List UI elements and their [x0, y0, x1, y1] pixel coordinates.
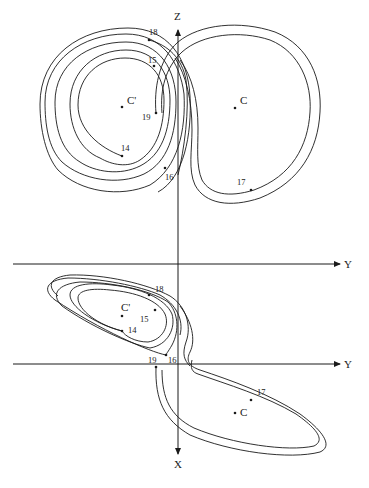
- c-label-top: C: [240, 94, 247, 106]
- label-17-bottom: 17: [257, 387, 266, 397]
- point-14-bottom: [121, 330, 124, 333]
- point-16-top: [164, 167, 167, 170]
- label-14-bottom: 14: [128, 325, 137, 335]
- point-18-top: [148, 39, 151, 42]
- fixed-point-c-top: [234, 107, 237, 110]
- y-axis-label-lower: Y: [344, 358, 352, 370]
- label-19-bottom: 19: [148, 355, 157, 365]
- top-panel: Z C' C 14 15 16 17: [40, 10, 320, 250]
- label-15-bottom: 15: [140, 314, 149, 324]
- label-19-top: 19: [142, 112, 151, 122]
- label-16-bottom: 16: [168, 355, 177, 365]
- z-axis-label: Z: [174, 10, 181, 22]
- point-18-bottom: [148, 294, 151, 297]
- point-19-bottom: [155, 366, 158, 369]
- label-16-top: 16: [165, 172, 174, 182]
- label-14-top: 14: [121, 143, 130, 153]
- point-15-bottom: [154, 309, 157, 312]
- point-14-top: [121, 155, 124, 158]
- point-19-top: [155, 112, 158, 115]
- label-15-top: 15: [148, 55, 157, 65]
- point-17-top: [250, 189, 253, 192]
- left-loops-bottom: [48, 275, 190, 366]
- point-16-bottom: [165, 354, 168, 357]
- c-prime-label-bottom: C': [121, 301, 130, 313]
- label-17-top: 17: [237, 177, 246, 187]
- label-18-bottom: 18: [155, 284, 164, 294]
- fixed-point-c-prime-bottom: [121, 315, 124, 318]
- point-17-bottom: [250, 399, 253, 402]
- bottom-panel: Y Y X C' C 14 15 16: [13, 250, 352, 470]
- point-15-top: [153, 65, 156, 68]
- lorenz-attractor-diagram: Z C' C 14 15 16 17: [0, 0, 369, 488]
- left-loops-top: [40, 28, 190, 192]
- fixed-point-c-prime-top: [121, 106, 124, 109]
- c-prime-label-top: C': [127, 94, 136, 106]
- x-axis-label: X: [174, 458, 182, 470]
- y-axis-label-upper: Y: [344, 258, 352, 270]
- fixed-point-c-bottom: [234, 412, 237, 415]
- label-18-top: 18: [149, 27, 158, 37]
- c-label-bottom: C: [240, 406, 247, 418]
